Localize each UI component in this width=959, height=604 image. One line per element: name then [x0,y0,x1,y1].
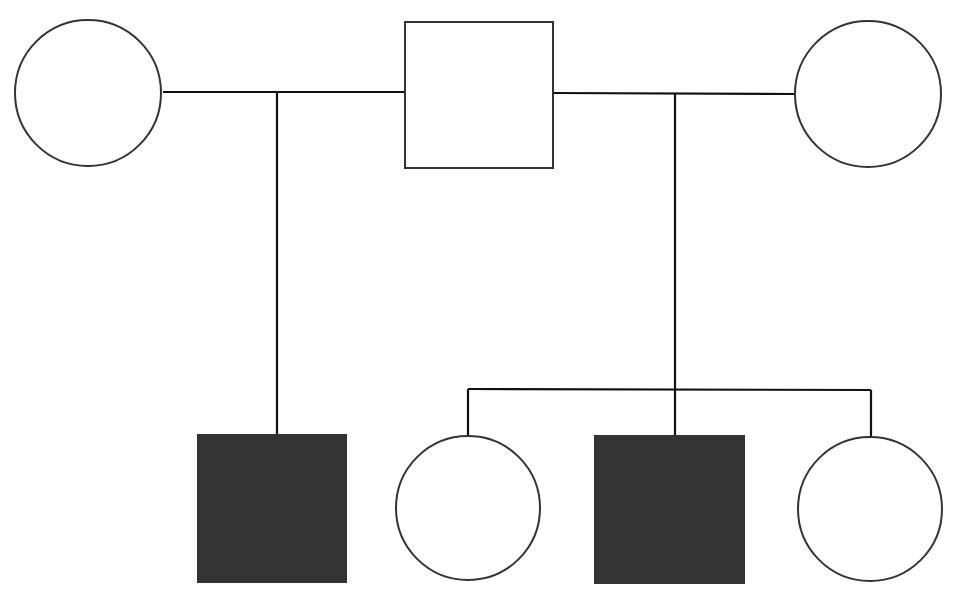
gen2-female-2-circle [396,436,540,580]
gen1-male-center-square [405,22,553,168]
gen1-female-left-circle [15,20,161,166]
gen2-male-1-square [198,435,346,582]
gen2-male-3-square [595,436,744,583]
gen1-female-right-circle [795,21,941,167]
gen2-female-4-circle [798,437,942,581]
pedigree-diagram [0,0,959,604]
sibship-line [468,389,871,390]
marriage-line-right [553,93,796,94]
pedigree-canvas [0,0,959,604]
